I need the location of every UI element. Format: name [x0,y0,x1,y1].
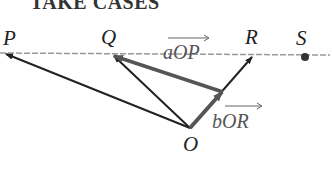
label-R: R [244,25,258,49]
label-bOR: bOR [212,110,249,132]
point-S-dot [301,53,309,61]
label-O: O [183,132,198,156]
label-S: S [296,26,307,50]
label-P: P [2,26,16,50]
vector-diagram: P Q R S O aOP bOR [0,0,332,171]
label-Q: Q [101,25,116,49]
arrow-OP [6,54,190,128]
label-aOP: aOP [163,41,200,63]
